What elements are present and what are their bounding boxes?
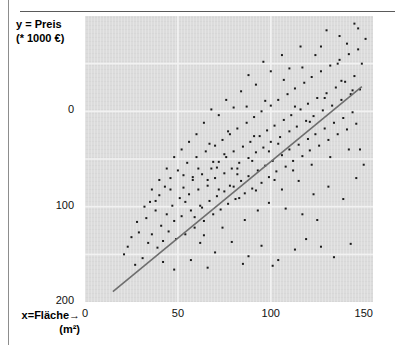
y-tick-label-0: 0	[30, 103, 74, 115]
y-tick-label-100: 100	[30, 199, 74, 211]
x-tick-label-150: 150	[344, 307, 384, 319]
y-axis-title-line2: (* 1000 €)	[16, 31, 64, 45]
y-axis-title-line1: y = Preis	[16, 17, 64, 31]
y-tick-label-200: 200	[30, 294, 74, 306]
x-tick-label-50: 50	[158, 307, 198, 319]
x-tick-label-0: 0	[65, 307, 105, 319]
clipped-header-text	[20, 0, 395, 4]
scatter-plot-svg	[85, 16, 373, 302]
scatter-plot-page: y = Preis (* 1000 €) x=Fläche→ (m²) 200 …	[0, 0, 395, 345]
gridlines	[85, 16, 373, 302]
plot-area	[85, 16, 373, 302]
scatter-series	[123, 23, 367, 271]
x-tick-label-100: 100	[251, 307, 291, 319]
left-vertical-rule	[8, 0, 9, 345]
top-horizontal-rule	[20, 11, 395, 12]
x-axis-title-line2: (m²)	[14, 322, 80, 336]
regression-line	[113, 87, 362, 292]
y-axis-title: y = Preis (* 1000 €)	[16, 17, 64, 45]
